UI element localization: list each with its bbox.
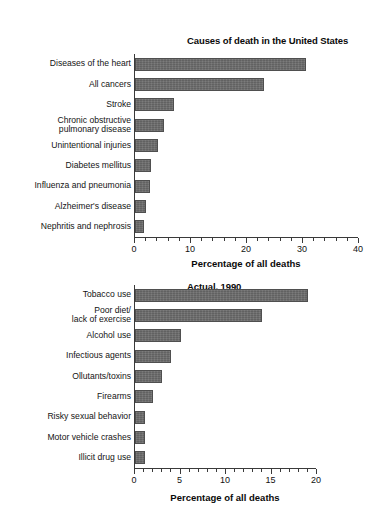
bar-row: Firearms <box>135 387 317 407</box>
x-tick-major <box>134 469 135 474</box>
x-tick-label: 30 <box>297 244 307 254</box>
chart-title-top-line1: Causes of death in the United States <box>187 35 348 46</box>
x-axis-ticks-top: 010203040 <box>134 238 358 260</box>
bar <box>135 98 174 111</box>
x-tick-minor <box>307 469 308 472</box>
bar <box>135 350 171 363</box>
category-label: Diseases of the heart <box>1 59 131 69</box>
bar <box>135 159 151 172</box>
x-tick-minor <box>336 238 337 241</box>
bar-row: Illicit drug use <box>135 448 317 468</box>
plot-area-top: Diseases of the heartAll cancersStrokeCh… <box>134 54 359 237</box>
x-tick-label: 0 <box>131 475 136 485</box>
bar <box>135 431 145 444</box>
bar <box>135 200 146 213</box>
x-tick-label: 20 <box>241 244 251 254</box>
x-tick-minor <box>179 238 180 241</box>
x-tick-label: 10 <box>220 475 230 485</box>
bar <box>135 58 306 71</box>
x-tick-major <box>225 469 226 474</box>
bar-row: Stroke <box>135 95 359 115</box>
bar-row: Nephritis and nephrosis <box>135 217 359 237</box>
x-tick-minor <box>145 238 146 241</box>
x-tick-label: 5 <box>177 475 182 485</box>
bar-row: All cancers <box>135 74 359 94</box>
x-tick-minor <box>289 469 290 472</box>
bar <box>135 370 162 383</box>
bar-row: Motor vehicle crashes <box>135 427 317 447</box>
bar-row: Poor diet/ lack of exercise <box>135 305 317 325</box>
x-tick-label: 40 <box>353 244 363 254</box>
x-tick-minor <box>201 238 202 241</box>
category-label: Tobacco use <box>1 290 131 300</box>
category-label: Illicit drug use <box>1 453 131 463</box>
x-tick-minor <box>280 238 281 241</box>
plot-area-bottom: Tobacco usePoor diet/ lack of exerciseAl… <box>134 285 317 468</box>
x-tick-minor <box>189 469 190 472</box>
category-label: Poor diet/ lack of exercise <box>1 306 131 325</box>
x-tick-minor <box>252 469 253 472</box>
x-tick-minor <box>280 469 281 472</box>
category-label: Alzheimer's disease <box>1 202 131 212</box>
bar <box>135 180 150 193</box>
bar <box>135 309 262 322</box>
bar <box>135 220 144 233</box>
bar <box>135 451 145 464</box>
category-label: Alcohol use <box>1 331 131 341</box>
x-tick-minor <box>243 469 244 472</box>
x-tick-major <box>246 238 247 243</box>
x-tick-minor <box>257 238 258 241</box>
x-tick-minor <box>143 469 144 472</box>
x-tick-minor <box>268 238 269 241</box>
category-label: Chronic obstructive pulmonary disease <box>1 116 131 135</box>
category-label: Unintentional injuries <box>1 141 131 151</box>
x-tick-minor <box>212 238 213 241</box>
x-tick-major <box>271 469 272 474</box>
bar <box>135 411 145 424</box>
bar-row: Risky sexual behavior <box>135 407 317 427</box>
category-label: Risky sexual behavior <box>1 412 131 422</box>
category-label: Firearms <box>1 392 131 402</box>
x-tick-minor <box>261 469 262 472</box>
bar-row: Ollutants/toxins <box>135 366 317 386</box>
bar <box>135 390 153 403</box>
x-tick-label: 0 <box>131 244 136 254</box>
bar <box>135 78 264 91</box>
x-tick-major <box>190 238 191 243</box>
category-label: All cancers <box>1 80 131 90</box>
bar-row: Infectious agents <box>135 346 317 366</box>
figure-two-bar-charts: Causes of death in the United States Mos… <box>0 0 383 529</box>
x-tick-major <box>302 238 303 243</box>
bar-row: Tobacco use <box>135 285 317 305</box>
category-label: Motor vehicle crashes <box>1 433 131 443</box>
bar-row: Alzheimer's disease <box>135 196 359 216</box>
x-tick-major <box>316 469 317 474</box>
x-axis-title-bottom: Percentage of all deaths <box>110 492 340 503</box>
x-tick-label: 20 <box>311 475 321 485</box>
x-tick-major <box>134 238 135 243</box>
category-label: Ollutants/toxins <box>1 372 131 382</box>
bar-row: Diseases of the heart <box>135 54 359 74</box>
bar <box>135 119 164 132</box>
x-tick-minor <box>207 469 208 472</box>
x-tick-minor <box>234 469 235 472</box>
x-tick-minor <box>170 469 171 472</box>
bar-row: Influenza and pneumonia <box>135 176 359 196</box>
x-tick-major <box>358 238 359 243</box>
x-tick-label: 15 <box>265 475 275 485</box>
x-tick-minor <box>198 469 199 472</box>
x-axis-ticks-bottom: 05101520 <box>134 469 316 491</box>
category-label: Diabetes mellitus <box>1 161 131 171</box>
bar-row: Unintentional injuries <box>135 135 359 155</box>
bar <box>135 289 308 302</box>
x-tick-minor <box>161 469 162 472</box>
bar-row: Chronic obstructive pulmonary disease <box>135 115 359 135</box>
x-tick-major <box>180 469 181 474</box>
x-tick-minor <box>235 238 236 241</box>
x-tick-minor <box>313 238 314 241</box>
x-tick-minor <box>168 238 169 241</box>
category-label: Nephritis and nephrosis <box>1 222 131 232</box>
x-tick-minor <box>156 238 157 241</box>
bar-row: Diabetes mellitus <box>135 156 359 176</box>
category-label: Influenza and pneumonia <box>1 181 131 191</box>
